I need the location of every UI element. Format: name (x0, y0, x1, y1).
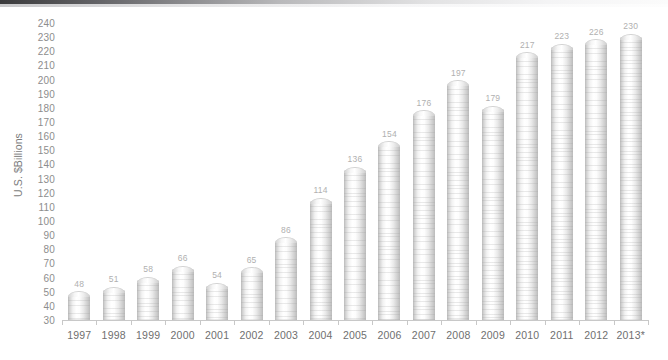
y-axis-tick-label: 100 (38, 216, 55, 227)
bar-chart: U.S. $Billions 2402302202102001901801701… (0, 7, 668, 360)
y-axis-tick-label: 160 (38, 131, 55, 142)
y-axis-title: U.S. $Billions (12, 95, 24, 235)
bar-value-label: 230 (614, 21, 648, 31)
bar-top-ellipse (516, 52, 538, 58)
bar-cylinder (516, 56, 538, 320)
y-axis-tick-label: 110 (38, 201, 55, 212)
bar-value-label: 176 (407, 98, 441, 108)
bar-value-label: 217 (510, 40, 544, 50)
bar-value-label: 226 (579, 27, 613, 37)
bar-value-label: 197 (441, 68, 475, 78)
bar-top-ellipse (378, 141, 400, 147)
x-axis-label: 2013* (608, 329, 654, 341)
bar-top-ellipse (585, 39, 607, 45)
y-axis-tick-label: 130 (38, 173, 55, 184)
bar-value-label: 86 (269, 225, 303, 235)
bar-top-ellipse (275, 237, 297, 243)
y-axis-tick-label: 60 (43, 272, 55, 283)
bar-cylinder (585, 43, 607, 320)
bar-cylinder (310, 201, 332, 320)
bar-top-ellipse (620, 34, 642, 40)
bar-cylinder (137, 280, 159, 320)
y-axis-tick-label: 50 (43, 286, 55, 297)
y-axis-tick-label: 30 (43, 315, 55, 326)
bar-top-ellipse (137, 277, 159, 283)
bar-cylinder (551, 47, 573, 320)
page-canvas: U.S. $Billions 2402302202102001901801701… (0, 0, 668, 360)
y-axis-tick-label: 190 (38, 88, 55, 99)
y-axis-tick-label: 220 (38, 46, 55, 57)
plot-area: 2402302202102001901801701601501401301201… (62, 7, 648, 360)
bar-value-label: 51 (97, 274, 131, 284)
y-axis-tick-label: 230 (38, 32, 55, 43)
bar-value-label: 154 (372, 129, 406, 139)
bar-cylinder (241, 271, 263, 321)
bar-top-ellipse (172, 266, 194, 272)
y-axis-tick-label: 240 (38, 18, 55, 29)
bar-top-ellipse (551, 44, 573, 50)
bar-cylinder (68, 295, 90, 320)
bar-value-label: 54 (200, 270, 234, 280)
bar-top-ellipse (103, 287, 125, 293)
bar-value-label: 136 (338, 154, 372, 164)
y-axis-tick-label: 70 (43, 258, 55, 269)
bar-cylinder (413, 114, 435, 320)
y-axis-tick-label: 140 (38, 159, 55, 170)
bar-cylinder (206, 286, 228, 320)
bar-top-ellipse (68, 291, 90, 297)
y-axis-tick-label: 120 (38, 187, 55, 198)
bar-value-label: 223 (545, 31, 579, 41)
bar-value-label: 114 (304, 185, 338, 195)
bar-top-ellipse (482, 106, 504, 112)
bar-top-ellipse (241, 267, 263, 273)
bar-top-ellipse (447, 80, 469, 86)
bar-cylinder (482, 109, 504, 320)
bar-value-label: 179 (476, 93, 510, 103)
bar-value-label: 58 (131, 264, 165, 274)
bar-cylinder (103, 290, 125, 320)
bar-top-ellipse (310, 198, 332, 204)
bar-value-label: 66 (166, 253, 200, 263)
bar-value-label: 65 (235, 255, 269, 265)
y-axis-tick-label: 200 (38, 74, 55, 85)
bar-value-label: 48 (62, 279, 96, 289)
y-axis-tick-label: 90 (43, 230, 55, 241)
y-axis-tick-label: 150 (38, 145, 55, 156)
x-axis-tick (648, 320, 649, 325)
y-axis-tick-label: 210 (38, 60, 55, 71)
y-axis-tick-label: 170 (38, 117, 55, 128)
bar-cylinder (172, 269, 194, 320)
bar-top-ellipse (206, 283, 228, 289)
bar-cylinder (447, 84, 469, 320)
bar-top-ellipse (344, 167, 366, 173)
bar-cylinder (275, 241, 297, 320)
bar-top-ellipse (413, 110, 435, 116)
bar-series: 4851586654658611413615417619717921722322… (62, 7, 648, 360)
bar-cylinder (620, 37, 642, 320)
bar-cylinder (378, 145, 400, 320)
bar-cylinder (344, 170, 366, 320)
y-axis-tick-label: 40 (43, 300, 55, 311)
y-axis-tick-label: 180 (38, 102, 55, 113)
y-axis-tick-label: 80 (43, 244, 55, 255)
